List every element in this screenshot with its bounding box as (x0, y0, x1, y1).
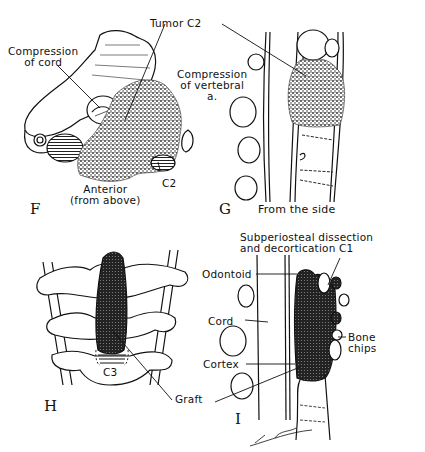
panel-letter-g: G (219, 200, 231, 218)
label-from-the-side: From the side (258, 204, 335, 215)
panel-g-drawing (222, 24, 345, 202)
label-c2: C2 (162, 178, 176, 189)
label-subperiosteal-dissection: Subperiosteal dissection and decorticati… (240, 232, 373, 254)
label-anterior-from-above: Anterior (from above) (70, 184, 141, 206)
panel-letter-h: H (44, 397, 57, 415)
label-graft: Graft (175, 394, 203, 405)
label-cortex: Cortex (203, 359, 239, 370)
label-cord: Cord (208, 316, 233, 327)
label-compression-of-cord: Compression of cord (8, 46, 78, 68)
panel-letter-f: F (30, 200, 40, 218)
label-odontoid: Odontoid (202, 269, 252, 280)
label-tumor-c2: Tumor C2 (150, 18, 201, 29)
label-c3: C3 (103, 367, 117, 378)
label-compression-of-vertebral-artery: Compression of vertebral a. (177, 69, 247, 102)
panel-letter-i: I (235, 410, 241, 428)
label-bone-chips: Bone chips (348, 332, 376, 354)
